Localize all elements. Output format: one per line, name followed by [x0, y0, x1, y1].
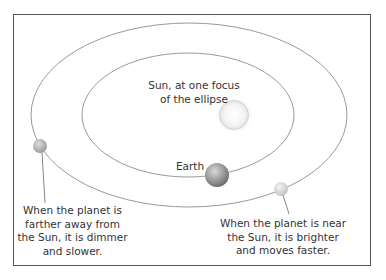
far-planet-caption: When the planet is farther away from the…: [15, 204, 130, 258]
near-planet-caption: When the planet is near the Sun, it is b…: [218, 217, 348, 258]
outer-orbit: [31, 23, 347, 207]
inner-orbit: [82, 53, 294, 177]
earth-label: Earth: [172, 160, 208, 174]
sun-label: Sun, at one focus of the ellipse: [124, 79, 264, 106]
earth-icon: [205, 163, 229, 187]
near-planet-icon: [274, 182, 288, 196]
near-planet-leader-line: [283, 195, 289, 214]
far-planet-icon: [33, 139, 47, 153]
far-planet-leader-line: [42, 152, 45, 203]
